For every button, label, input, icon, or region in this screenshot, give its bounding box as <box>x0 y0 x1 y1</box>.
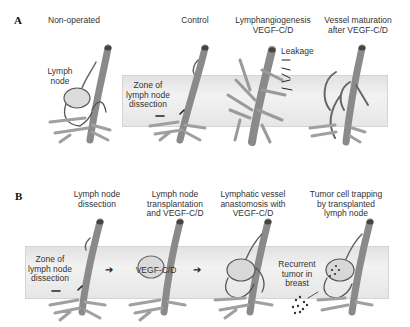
step-title-vessel-maturation: Vessel maturation after VEGF-C/D <box>318 16 398 35</box>
vessel-a1 <box>50 46 112 143</box>
leakage-label: Leakage <box>281 47 314 57</box>
recurrent-tumor-label: Recurrent tumor in breast <box>274 260 320 289</box>
lymph-node-label: Lymph node <box>42 67 78 86</box>
flow-arrow-icon: ➔ <box>105 264 113 275</box>
vegf-label: VEGF-C/D <box>131 266 181 276</box>
step-title-lymphatic-anastomosis: Lymphatic vessel anastomosis with VEGF-C… <box>213 190 293 219</box>
vessel-a3 <box>228 48 292 143</box>
dissection-zone-label-b: Zone of lymph node dissection <box>22 255 78 284</box>
step-title-control: Control <box>165 16 225 26</box>
step-title-lymph-node-dissection: Lymph node dissection <box>62 190 132 209</box>
step-title-lymphangiogenesis: Lymphangiogenesis VEGF-C/D <box>229 16 317 35</box>
vessel-a4 <box>310 46 368 143</box>
step-title-lymph-node-transplantation: Lymph node transplantation and VEGF-C/D <box>140 190 210 219</box>
step-title-non-operated: Non-operated <box>34 16 114 26</box>
step-title-tumor-cell-trapping: Tumor cell trapping by transplanted lymp… <box>304 190 388 219</box>
vessel-b3 <box>215 220 272 319</box>
flow-arrow-icon: ➔ <box>193 264 201 275</box>
dissection-zone-label-a: Zone of lymph node dissection <box>120 81 176 110</box>
